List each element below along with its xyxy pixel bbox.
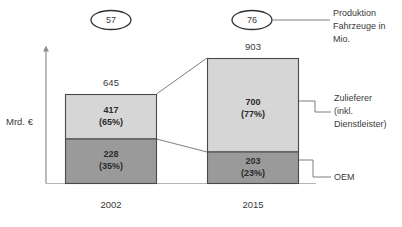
y-axis-label: Mrd. € bbox=[6, 116, 33, 127]
callout-produktion-line3: Mio. bbox=[333, 33, 386, 46]
bar-2002-oem-value: 228 bbox=[81, 149, 141, 161]
callout-produktion-line2: Fahrzeuge in bbox=[333, 20, 386, 33]
badge-value-right: 76 bbox=[232, 15, 272, 26]
bar-2015-oem-percent: (23%) bbox=[223, 168, 283, 180]
bar-2002-zulieferer-percent: (65%) bbox=[81, 117, 141, 129]
connector-top bbox=[157, 58, 208, 94]
category-label-2002: 2002 bbox=[81, 199, 141, 210]
connector-divider bbox=[157, 139, 208, 152]
callout-zulieferer-line1: Zulieferer bbox=[334, 92, 387, 105]
category-label-2015: 2015 bbox=[223, 199, 283, 210]
callout-produktion-line1: Produktion bbox=[333, 7, 386, 20]
callout-zulieferer: Zulieferer (inkl. Dienstleister) bbox=[334, 92, 387, 130]
bar-total-2015: 903 bbox=[223, 41, 283, 52]
leader-line-oem bbox=[299, 160, 331, 177]
callout-produktion: Produktion Fahrzeuge in Mio. bbox=[333, 7, 386, 45]
bar-2002-oem-percent: (35%) bbox=[81, 161, 141, 173]
badge-value-left: 57 bbox=[91, 15, 131, 26]
callout-zulieferer-line2: (inkl. bbox=[334, 105, 387, 118]
bar-total-2002: 645 bbox=[81, 77, 141, 88]
callout-oem-line1: OEM bbox=[334, 171, 355, 184]
callout-oem: OEM bbox=[334, 171, 355, 184]
bar-2015-oem-value: 203 bbox=[223, 156, 283, 168]
leader-line-zulieferer bbox=[299, 101, 331, 112]
bar-2015-zulieferer-percent: (77%) bbox=[223, 109, 283, 121]
bar-2002-zulieferer-value: 417 bbox=[81, 105, 141, 117]
stacked-bar-chart: Mrd. € 57 76 645 903 417 (65%) 228 (35%)… bbox=[0, 0, 402, 227]
y-axis bbox=[43, 46, 49, 184]
bar-2015-zulieferer-value: 700 bbox=[223, 97, 283, 109]
callout-zulieferer-line3: Dienstleister) bbox=[334, 118, 387, 131]
